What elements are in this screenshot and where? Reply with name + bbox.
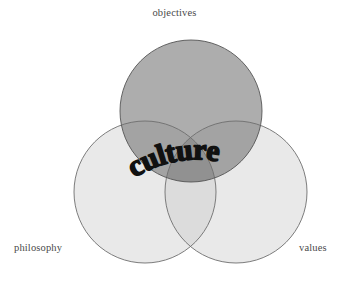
venn-label-values: values xyxy=(299,242,327,254)
venn-label-objectives: objectives xyxy=(0,7,349,19)
venn-circles-graphic xyxy=(0,0,349,281)
venn-diagram-canvas: culture objectives philosophy values xyxy=(0,0,349,281)
venn-label-philosophy: philosophy xyxy=(14,242,62,254)
